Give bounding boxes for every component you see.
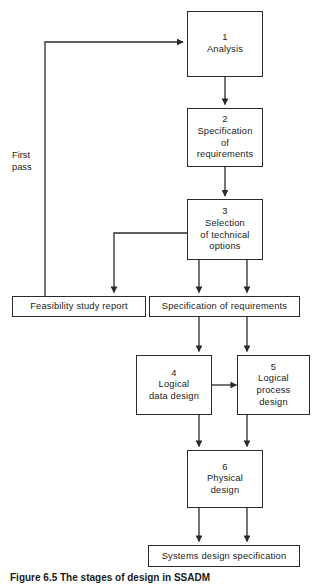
node-physical-design-label: Physical design — [207, 473, 243, 496]
node-analysis-number: 1 — [222, 32, 227, 44]
node-logical-process-design-number: 5 — [271, 362, 276, 374]
node-physical-design-number: 6 — [222, 462, 227, 474]
node-logical-data-design[interactable]: 4 Logical data design — [136, 355, 212, 415]
node-specification-of-requirements[interactable]: 2 Specification of requirements — [187, 108, 263, 167]
node-physical-design[interactable]: 6 Physical design — [187, 450, 263, 508]
document-specification-of-requirements[interactable]: Specification of requirements — [149, 296, 300, 317]
node-logical-process-design-label: Logical process design — [257, 373, 291, 408]
document-feasibility-study-report[interactable]: Feasibility study report — [12, 296, 146, 317]
node-specification-label: Specification of requirements — [197, 126, 254, 161]
node-selection-number: 3 — [222, 206, 227, 218]
document-specification-of-requirements-label: Specification of requirements — [162, 301, 287, 312]
document-systems-design-specification[interactable]: Systems design specification — [148, 545, 300, 567]
figure-container: 1 Analysis 2 Specification of requiremen… — [0, 0, 330, 584]
edge-n3-d1 — [114, 233, 187, 293]
node-specification-number: 2 — [222, 114, 227, 126]
node-analysis[interactable]: 1 Analysis — [187, 11, 263, 77]
figure-caption: Figure 6.5 The stages of design in SSADM — [10, 571, 210, 584]
node-logical-process-design[interactable]: 5 Logical process design — [237, 355, 310, 415]
node-analysis-label: Analysis — [207, 44, 243, 56]
node-selection-of-technical-options[interactable]: 3 Selection of technical options — [187, 199, 263, 260]
document-feasibility-study-report-label: Feasibility study report — [30, 301, 127, 312]
first-pass-label: First pass — [12, 149, 44, 174]
node-logical-data-design-number: 4 — [171, 368, 176, 380]
node-selection-label: Selection of technical options — [200, 218, 249, 253]
node-logical-data-design-label: Logical data design — [149, 379, 199, 402]
document-systems-design-specification-label: Systems design specification — [162, 551, 287, 562]
flowchart-connectors — [0, 0, 330, 584]
